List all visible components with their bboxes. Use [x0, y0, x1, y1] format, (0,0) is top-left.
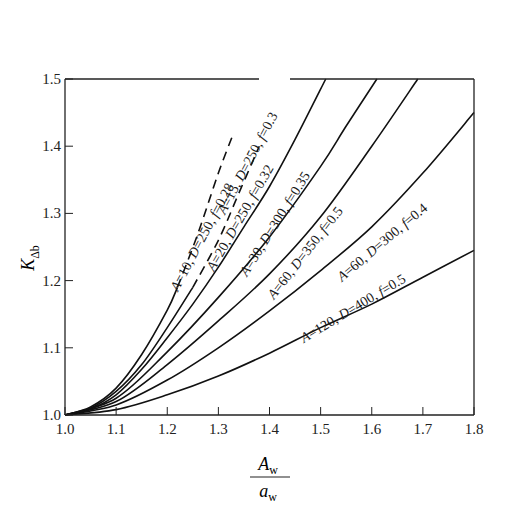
curve-label: A=120, D=400, f=0.5 [297, 271, 408, 346]
curve-line [65, 287, 193, 415]
y-tick-label: 1.1 [42, 340, 61, 356]
svg-text:aw: aw [259, 481, 277, 504]
svg-text:Aw: Aw [257, 454, 278, 477]
x-axis-label: Aw aw [250, 454, 290, 504]
y-tick-label: 1.2 [42, 273, 61, 289]
y-tick-label: 1.5 [42, 71, 61, 87]
x-tick-label: 1.1 [107, 421, 126, 437]
curve-line [65, 287, 177, 415]
x-tick-label: 1.2 [158, 421, 177, 437]
x-tick-label: 1.5 [311, 421, 330, 437]
curve-label: A=60, D=300, f=0.4 [334, 200, 431, 285]
chart: 1.01.11.21.31.41.51.61.71.81.01.11.21.31… [0, 0, 510, 520]
y-axis-label: KΔb [18, 245, 42, 272]
y-tick-label: 1.0 [42, 407, 61, 423]
x-tick-label: 1.7 [414, 421, 433, 437]
x-tick-label: 1.0 [56, 421, 75, 437]
curve-line [65, 113, 474, 415]
y-tick-label: 1.3 [42, 205, 61, 221]
x-tick-label: 1.8 [465, 421, 484, 437]
x-tick-label: 1.3 [209, 421, 228, 437]
x-tick-label: 1.4 [260, 421, 279, 437]
x-tick-label: 1.6 [362, 421, 381, 437]
y-tick-label: 1.4 [42, 138, 61, 154]
